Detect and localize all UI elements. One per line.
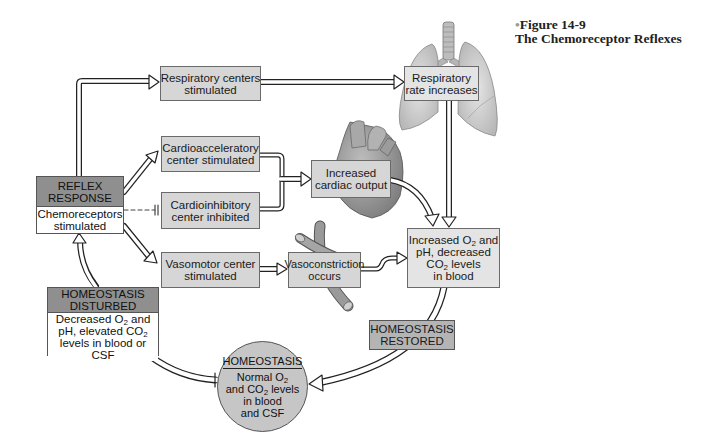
box-line: Vasoconstriction — [285, 258, 365, 270]
arrow-cardio-to-cardiac-output — [260, 155, 311, 209]
text: Increased O — [409, 234, 472, 246]
box-line: Cardioacceleratory — [162, 142, 259, 154]
arrow-reflex-to-cardioacceleratory — [124, 151, 158, 192]
box-line: center inhibited — [172, 211, 250, 223]
respiratory-rate-box: Respiratory rate increases — [404, 66, 479, 101]
arrow-reflex-to-vasomotor — [124, 226, 157, 263]
homeostasis-disturbed-header: HOMEOSTASIS DISTURBED — [48, 288, 158, 313]
homeostasis-disturbed-box: HOMEOSTASIS DISTURBED Decreased O2 and p… — [47, 287, 159, 356]
homeostasis-restored-box: HOMEOSTASIS RESTORED — [369, 320, 455, 350]
text: pH, elevated CO — [58, 325, 143, 337]
body-line: stimulated — [54, 220, 106, 232]
arrow-respiratory-rate-to-increased-o2 — [442, 100, 456, 227]
arrow-vasoconstriction-to-increased-o2 — [360, 252, 407, 269]
reflex-response-header: REFLEX RESPONSE — [37, 177, 123, 207]
body-line: Chemoreceptors — [37, 208, 122, 220]
arrow-disturbed-to-reflex — [73, 233, 96, 287]
homeostasis-circle: HOMEOSTASIS Normal O2 and CO2 levels in … — [217, 341, 308, 432]
figure-label: Figure 14-9 — [520, 17, 586, 32]
box-line: Respiratory — [412, 72, 471, 84]
text: Normal O — [237, 371, 284, 383]
box-line: stimulated — [184, 270, 236, 282]
cardioinhibitory-box: Cardioinhibitory center inhibited — [161, 192, 260, 229]
circle-line: in blood — [243, 395, 282, 407]
box-line: CO2 levels — [426, 258, 480, 270]
box-line: Increased O2 and — [409, 234, 499, 246]
header-line: HOMEOSTASIS — [61, 288, 145, 300]
header-line: REFLEX — [58, 180, 103, 192]
body-line: pH, elevated CO2 — [58, 325, 147, 337]
increased-o2-box: Increased O2 and pH, decreased CO2 level… — [407, 228, 500, 288]
box-line: center stimulated — [167, 154, 255, 166]
text: CO — [426, 258, 443, 270]
box-line: cardiac output — [315, 179, 387, 191]
box-line: occurs — [308, 270, 340, 282]
box-line: in blood — [433, 270, 473, 282]
vasoconstriction-box: Vasoconstriction occurs — [288, 252, 361, 288]
body-line: levels in blood or CSF — [48, 337, 158, 361]
arrow-vasomotor-to-vasoconstriction — [258, 263, 287, 275]
header-line: RESPONSE — [48, 192, 112, 204]
circle-line: and CSF — [241, 407, 284, 419]
vasomotor-box: Vasomotor center stimulated — [161, 252, 260, 288]
text: and — [128, 313, 150, 325]
arrow-reflex-to-cardioinhibitory-inhibit — [124, 205, 158, 215]
box-line: Increased — [326, 167, 377, 179]
reflex-response-body: Chemoreceptors stimulated — [37, 207, 123, 233]
homeostasis-disturbed-body: Decreased O2 and pH, elevated CO2 levels… — [48, 313, 158, 361]
box-line: pH, decreased — [416, 246, 491, 258]
circle-line: Normal O2 — [237, 371, 289, 383]
body-line: Decreased O2 and — [56, 313, 151, 325]
arrow-respiratory-centers-to-rate — [260, 75, 404, 89]
cardioacceleratory-box: Cardioacceleratory center stimulated — [161, 136, 260, 172]
text: and — [476, 234, 498, 246]
box-line: stimulated — [184, 84, 236, 96]
header-line: DISTURBED — [70, 300, 136, 312]
respiratory-centers-box: Respiratory centers stimulated — [160, 66, 261, 101]
figure-title: The Chemoreceptor Reflexes — [515, 32, 682, 46]
figure-caption: •Figure 14-9 The Chemoreceptor Reflexes — [515, 18, 682, 46]
circle-header: HOMEOSTASIS — [223, 355, 303, 369]
text: Decreased O — [56, 313, 124, 325]
box-line: Vasomotor center — [166, 258, 256, 270]
box-line: rate increases — [405, 84, 477, 96]
text: levels — [268, 383, 299, 395]
reflex-response-box: REFLEX RESPONSE Chemoreceptors stimulate… — [36, 176, 124, 234]
cardiac-output-box: Increased cardiac output — [311, 160, 391, 198]
circle-line: and CO2 levels — [226, 383, 300, 395]
box-line: Respiratory centers — [161, 72, 261, 84]
box-line: HOMEOSTASIS — [370, 323, 454, 335]
arrow-homeostasis-to-disturbed — [150, 356, 217, 387]
box-line: RESTORED — [380, 335, 444, 347]
box-line: Cardioinhibitory — [171, 199, 251, 211]
text: and CO — [226, 383, 264, 395]
text: levels — [448, 258, 481, 270]
